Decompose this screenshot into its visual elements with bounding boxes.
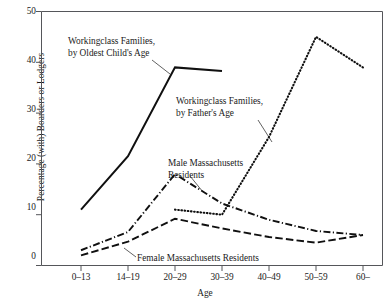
- series-line-male-residents: [81, 174, 363, 250]
- series-line-workingclass-oldest-child: [81, 67, 222, 209]
- series-line-female-residents: [81, 219, 363, 256]
- plot-area: [0, 0, 392, 306]
- y-tick-marks: [36, 12, 42, 266]
- leader-female-residents: [124, 248, 136, 257]
- plot-frame: [42, 12, 383, 266]
- chart-figure: Percentage (with) Boarders or Lodgers 50…: [0, 0, 392, 306]
- leader-fathers-age: [258, 120, 272, 142]
- leader-oldest-child: [152, 60, 170, 74]
- x-tick-marks: [81, 266, 363, 272]
- series-line-workingclass-fathers-age: [175, 37, 363, 215]
